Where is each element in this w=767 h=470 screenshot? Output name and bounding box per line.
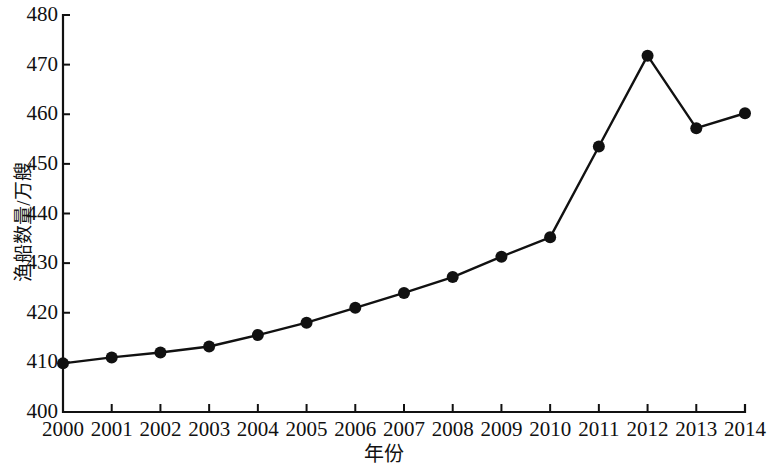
x-tick-label: 2014 xyxy=(715,418,767,440)
chart-figure: 400410420430440450460470480 200020012002… xyxy=(0,0,767,470)
x-axis-tick-labels: 2000200120022003200420052006200720082009… xyxy=(0,0,767,470)
y-axis-title: 渔船数量/万艘 xyxy=(14,122,34,322)
x-axis-title: 年份 xyxy=(0,443,767,465)
